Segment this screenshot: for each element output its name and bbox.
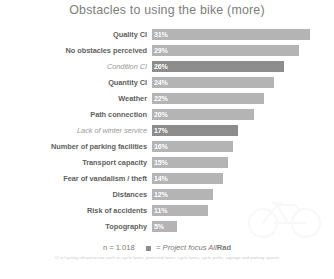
bar-value-label: 24% xyxy=(154,77,168,88)
bar-track: 24% xyxy=(152,77,334,88)
chart-plot-area: Quality CI31%No obstacles perceived29%Co… xyxy=(0,26,334,234)
chart-title: Obstacles to using the bike (more) xyxy=(0,3,334,17)
bar-value-label: 12% xyxy=(154,189,168,200)
bar-category-label: Condition CI xyxy=(0,62,152,71)
bar-category-label: No obstacles perceived xyxy=(0,46,152,55)
bar-category-label: Weather xyxy=(0,94,152,103)
bar-value-label: 17% xyxy=(154,125,168,136)
bar-fill: 16% xyxy=(152,141,233,152)
bar-row: Path connection20% xyxy=(0,106,334,122)
bar-category-label: Number of parking facilities xyxy=(0,142,152,151)
bar-category-label: Quality CI xyxy=(0,30,152,39)
bar-category-label: Distances xyxy=(0,190,152,199)
bar-category-label: Topography xyxy=(0,222,152,231)
bar-track: 11% xyxy=(152,205,334,216)
bar-fill: 31% xyxy=(152,29,310,40)
bar-category-label: Risk of accidents xyxy=(0,206,152,215)
bar-category-label: Fear of vandalism / theft xyxy=(0,174,152,183)
bar-fill: 20% xyxy=(152,109,254,120)
bar-fill: 24% xyxy=(152,77,274,88)
bar-value-label: 15% xyxy=(154,157,168,168)
bar-track: 15% xyxy=(152,157,334,168)
bar-track: 12% xyxy=(152,189,334,200)
bar-fill: 11% xyxy=(152,205,208,216)
bar-value-label: 29% xyxy=(154,45,168,56)
legend-swatch-focus xyxy=(146,246,151,251)
bar-fill: 12% xyxy=(152,189,213,200)
bar-category-label: Quantity CI xyxy=(0,78,152,87)
bar-value-label: 20% xyxy=(154,109,168,120)
bar-category-label: Transport capacity xyxy=(0,158,152,167)
bar-track: 5% xyxy=(152,221,334,232)
bar-value-label: 26% xyxy=(154,61,168,72)
bar-category-label: Lack of winter service xyxy=(0,126,152,135)
bar-fill: 5% xyxy=(152,221,177,232)
bar-row: Distances12% xyxy=(0,186,334,202)
bar-fill: 17% xyxy=(152,125,238,136)
legend-label-brand: Rad xyxy=(217,243,231,252)
bar-row: No obstacles perceived29% xyxy=(0,42,334,58)
legend-label-project-focus: = Project focus AllRad xyxy=(156,243,231,252)
bar-row: Quantity CI24% xyxy=(0,74,334,90)
bar-value-label: 11% xyxy=(154,205,167,216)
chart-footer-legend: n = 1.018 = Project focus AllRad xyxy=(0,243,334,252)
bar-track: 14% xyxy=(152,173,334,184)
bar-row: Condition CI26% xyxy=(0,58,334,74)
bar-chart-figure: Obstacles to using the bike (more) Quali… xyxy=(0,0,334,279)
bar-fill: 29% xyxy=(152,45,299,56)
bar-row: Lack of winter service17% xyxy=(0,122,334,138)
bar-value-label: 31% xyxy=(154,29,168,40)
bar-track: 29% xyxy=(152,45,334,56)
bar-fill: 26% xyxy=(152,61,284,72)
bar-row: Risk of accidents11% xyxy=(0,202,334,218)
bar-track: 31% xyxy=(152,29,334,40)
bar-fill: 15% xyxy=(152,157,228,168)
bar-value-label: 5% xyxy=(154,221,164,232)
sample-size-label: n = 1.018 xyxy=(103,243,135,252)
bar-track: 17% xyxy=(152,125,334,136)
bar-value-label: 14% xyxy=(154,173,168,184)
bar-row: Fear of vandalism / theft14% xyxy=(0,170,334,186)
chart-footnote: CI = Cycling infrastructure such as cycl… xyxy=(0,255,334,260)
bar-row: Transport capacity15% xyxy=(0,154,334,170)
bar-value-label: 16% xyxy=(154,141,168,152)
bar-row: Number of parking facilities16% xyxy=(0,138,334,154)
bar-track: 16% xyxy=(152,141,334,152)
bar-category-label: Path connection xyxy=(0,110,152,119)
bar-row: Quality CI31% xyxy=(0,26,334,42)
legend-label-text: = Project focus All xyxy=(156,243,217,252)
bar-row: Topography5% xyxy=(0,218,334,234)
bar-row: Weather22% xyxy=(0,90,334,106)
bar-track: 20% xyxy=(152,109,334,120)
bar-value-label: 22% xyxy=(154,93,168,104)
bar-fill: 22% xyxy=(152,93,264,104)
bar-track: 22% xyxy=(152,93,334,104)
bar-fill: 14% xyxy=(152,173,223,184)
bar-track: 26% xyxy=(152,61,334,72)
